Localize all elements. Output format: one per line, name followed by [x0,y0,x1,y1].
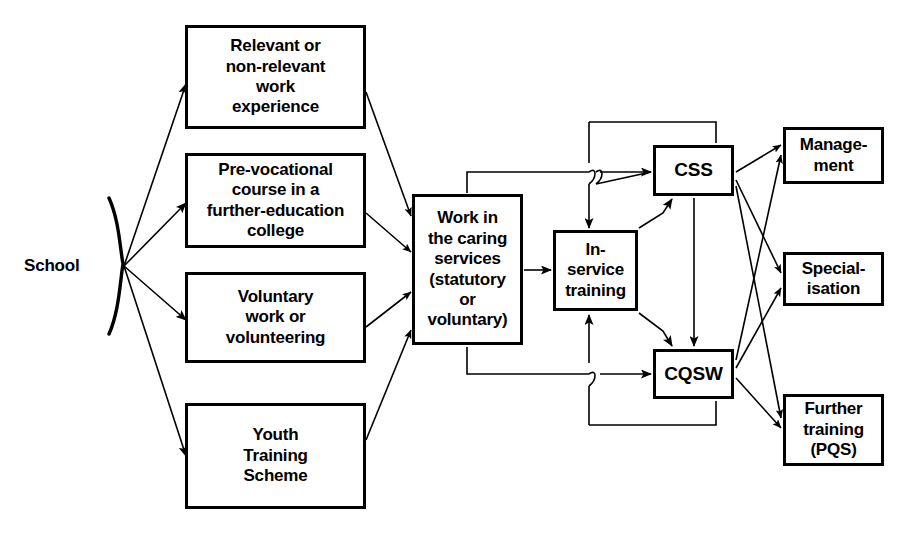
node-work-experience[interactable]: Relevant or non-relevant work experience [185,25,366,129]
edge-caring-services-css-hop [589,170,595,184]
edge-voluntary-work-to-caring-services [366,292,411,327]
node-management-label: Manage- ment [797,135,871,176]
node-in-service-training[interactable]: In- service training [553,230,638,311]
node-cqsw[interactable]: CQSW [653,349,734,399]
edge-school-to-youth-training [124,266,186,456]
node-further-training[interactable]: Further training (PQS) [783,394,884,466]
node-further-training-label: Further training (PQS) [800,399,867,460]
curly-brace-icon [104,196,130,336]
node-work-experience-label: Relevant or non-relevant work experience [223,36,329,118]
source-label: School [24,256,79,276]
edge-caring-services-cqsw-hop [589,372,595,386]
node-youth-training-label: Youth Training Scheme [240,425,311,486]
edge-caring-services-to-cqsw [467,347,589,374]
node-pre-vocational-label: Pre-vocational course in a further-educa… [204,160,347,242]
edge-in-service-to-cqsw [639,313,672,346]
edge-school-to-work-experience [124,84,186,266]
node-youth-training[interactable]: Youth Training Scheme [185,403,366,509]
node-specialisation-label: Special- isation [799,259,869,300]
edge-css-to-further-training [736,186,781,418]
node-voluntary-work-label: Voluntary work or volunteering [223,287,329,348]
edge-school-to-voluntary-work [124,266,186,320]
node-caring-services-label: Work in the caring services (statutory o… [424,208,510,330]
node-css-label: CSS [671,159,715,182]
node-management[interactable]: Manage- ment [783,127,884,184]
edge-css-to-management [736,145,781,172]
node-voluntary-work[interactable]: Voluntary work or volunteering [185,272,366,363]
flowchart-canvas: School Relevant or non-relevant work exp… [0,0,900,535]
edge-cqsw-to-specialisation [736,288,781,368]
edge-pre-vocational-to-caring-services [366,213,411,252]
node-in-service-training-label: In- service training [562,240,629,301]
edge-youth-training-to-caring-services [366,330,411,440]
edge-work-experience-to-caring-services [366,92,411,216]
node-pre-vocational[interactable]: Pre-vocational course in a further-educa… [185,153,366,248]
edge-cqsw-to-further-training [736,378,781,428]
edge-cqsw-to-management [736,155,781,360]
edge-caring-services-to-css [467,170,651,193]
edge-school-to-pre-vocational [124,203,186,266]
node-caring-services[interactable]: Work in the caring services (statutory o… [412,194,523,345]
edge-css-to-specialisation [736,180,781,273]
edge-cqsw-bottom-return [589,401,716,425]
edge-in-service-to-css [639,199,672,228]
node-css[interactable]: CSS [653,145,734,196]
node-cqsw-label: CQSW [661,363,725,386]
edge-css-top-return [589,122,716,143]
node-specialisation[interactable]: Special- isation [783,252,884,306]
